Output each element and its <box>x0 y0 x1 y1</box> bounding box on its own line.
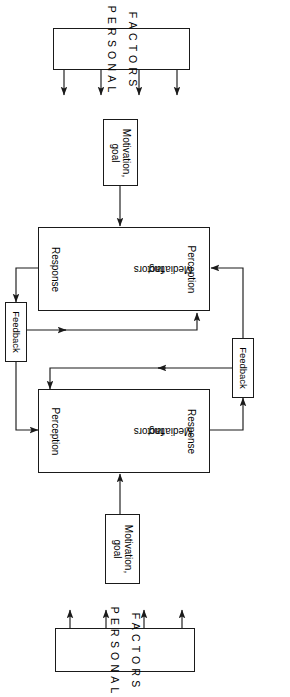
feedback-right-to-stage-bottom <box>50 368 232 389</box>
motivation-goal-text-bottom: Motivation, goal <box>111 525 133 573</box>
personal-factors-plate-top: FACTORS PERSONAL <box>53 28 190 70</box>
stage-bottom-cell-response: Response <box>175 390 209 472</box>
stage-top-mediating-line2: factors <box>127 264 170 275</box>
plate-line-personal-top: PERSONAL <box>105 2 117 97</box>
personal-factors-plate-bottom: FACTORS PERSONAL <box>55 628 195 672</box>
motivation-goal-box-top: Motivation, goal <box>103 119 138 186</box>
motivation-line-2-bottom: goal <box>112 540 123 559</box>
feedback-left-to-stage-top <box>16 313 197 362</box>
stage-top-to-feedback-left <box>16 268 38 302</box>
interaction-stage-top: Response Mediatingfactors Perception <box>38 227 210 311</box>
motivation-line-1-top: Motivation, <box>121 128 132 176</box>
stage-bottom-mediating-line2: factors <box>127 426 170 437</box>
stage-bottom-mediating-label: Mediatingfactors <box>144 409 177 452</box>
stage-top-response-label: Response <box>51 246 62 291</box>
feedback-box-left: Feedback <box>5 302 27 362</box>
stage-top-cell-response: Response <box>39 228 73 310</box>
stage-bottom-perception-label: Perception <box>51 407 62 455</box>
stage-bottom-cell-mediating: Mediatingfactors <box>143 390 177 472</box>
motivation-goal-text-top: Motivation, goal <box>109 128 131 176</box>
plate-line-factors-top: FACTORS <box>126 7 138 90</box>
feedback-box-right: Feedback <box>232 338 254 398</box>
motivation-line-2-top: goal <box>110 143 121 162</box>
plate-text-group-top: FACTORS PERSONAL <box>105 2 138 97</box>
stage-bottom-to-feedback-right <box>210 398 243 430</box>
motivation-line-1-bottom: Motivation, <box>123 525 134 573</box>
feedback-left-to-stage-bottom <box>16 362 38 430</box>
plate-line-factors-bottom: FACTORS <box>130 608 142 691</box>
stage-top-cell-perception: Perception <box>175 228 209 310</box>
stage-top-perception-label: Perception <box>187 245 198 293</box>
stage-top-mediating-label: Mediatingfactors <box>144 247 177 290</box>
feedback-left-label: Feedback <box>11 311 22 353</box>
feedback-right-to-stage-top <box>211 268 243 338</box>
plate-text-group-bottom: FACTORS PERSONAL <box>109 603 142 697</box>
motivation-goal-box-bottom: Motivation, goal <box>105 514 140 584</box>
stage-bottom-cell-perception: Perception <box>39 390 73 472</box>
stage-top-cell-mediating: Mediatingfactors <box>143 228 177 310</box>
interaction-stage-bottom: Perception Mediatingfactors Response <box>38 389 210 473</box>
plate-line-personal-bottom: PERSONAL <box>109 603 121 697</box>
stage-bottom-response-label: Response <box>187 408 198 453</box>
feedback-right-label: Feedback <box>238 347 249 389</box>
